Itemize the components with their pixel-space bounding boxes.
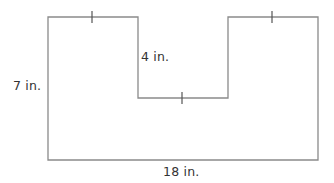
height-label: 7 in. xyxy=(13,80,41,93)
u-shape-diagram xyxy=(0,0,334,183)
notch-depth-label: 4 in. xyxy=(141,51,169,64)
u-shape-outline xyxy=(48,17,318,160)
width-label: 18 in. xyxy=(163,166,199,179)
